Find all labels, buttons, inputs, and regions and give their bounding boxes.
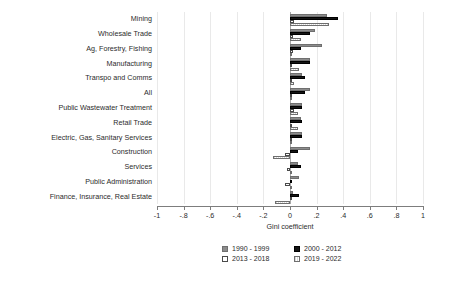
category-label: Mining [0,15,152,23]
category-label: Electric, Gas, Sanitary Services [0,134,152,142]
x-axis-tick [263,206,264,210]
category-label: All [0,89,152,97]
category-label: Wholesale Trade [0,30,152,38]
x-axis-tick [370,206,371,210]
x-axis-tick-label: 1 [410,211,436,220]
legend-item: 2000 - 2012 [294,245,372,252]
category-label: Public Wastewater Treatment [0,104,152,112]
bar-group [157,189,423,204]
bar [290,197,292,200]
bar [290,32,310,35]
category-label: Services [0,163,152,171]
grid-line [423,12,424,204]
x-axis-tick-label: -.6 [197,211,223,220]
x-axis-tick-label: .6 [357,211,383,220]
bar-group [157,71,423,86]
bar-group [157,174,423,189]
bar-group [157,56,423,71]
x-axis-tick-label: .4 [330,211,356,220]
category-label: Retail Trade [0,119,152,127]
x-axis-tick [423,206,424,210]
x-axis-tick-label: .8 [383,211,409,220]
legend-item: 2013 - 2018 [222,255,294,262]
x-axis-tick-label: 0 [277,211,303,220]
x-axis-tick-label: .2 [304,211,330,220]
bar-group [157,160,423,175]
category-label: Manufacturing [0,60,152,68]
category-label: Transpo and Comms [0,74,152,82]
bar-group [157,145,423,160]
legend-item: 1990 - 1999 [222,245,294,252]
legend-label: 2013 - 2018 [232,255,269,262]
bar-group [157,42,423,57]
legend-label: 2000 - 2012 [304,245,341,252]
category-label: Public Administration [0,178,152,186]
chart-legend: 1990 - 19992000 - 20122013 - 20182019 - … [222,245,392,262]
bar [290,61,310,64]
x-axis-tick [317,206,318,210]
category-label: Ag, Forestry, Fishing [0,45,152,53]
legend-swatch [294,246,300,252]
x-axis-tick-label: -.4 [224,211,250,220]
x-axis-tick-label: -1 [144,211,170,220]
bar [290,91,305,94]
gini-coefficient-bar-chart: MiningWholesale TradeAg, Forestry, Fishi… [0,0,453,287]
x-axis-title: Gini coefficient [157,222,423,231]
legend-item: 2019 - 2022 [294,255,372,262]
bar [290,76,305,79]
bar [290,165,301,168]
x-axis-tick-label: -.8 [171,211,197,220]
category-axis-labels: MiningWholesale TradeAg, Forestry, Fishi… [0,12,152,204]
plot-area [157,12,423,204]
legend-label: 2019 - 2022 [304,255,341,262]
x-axis-tick [237,206,238,210]
bar [290,180,292,183]
x-axis-tick [210,206,211,210]
category-label: Finance, Insurance, Real Estate [0,193,152,201]
legend-swatch [222,246,228,252]
bar [290,150,298,153]
bar-group [157,130,423,145]
x-axis-tick [184,206,185,210]
bar [275,201,290,204]
bar-group [157,86,423,101]
legend-swatch [222,256,228,262]
x-axis-tick [157,206,158,210]
bar-group [157,115,423,130]
bar-group [157,101,423,116]
x-axis-tick [396,206,397,210]
bar [290,17,338,20]
bar-group [157,27,423,42]
bar-group [157,12,423,27]
x-axis-tick-label: -.2 [250,211,276,220]
category-label: Construction [0,148,152,156]
legend-swatch [294,256,300,262]
x-axis-tick [290,206,291,210]
legend-label: 1990 - 1999 [232,245,269,252]
x-axis-tick [343,206,344,210]
